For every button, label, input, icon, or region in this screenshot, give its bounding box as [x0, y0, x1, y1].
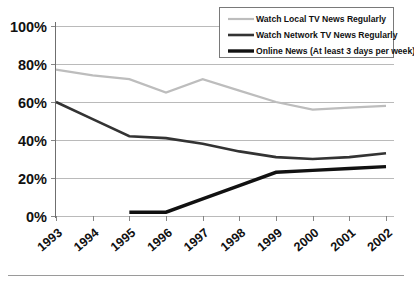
y-axis-label-20: 20%: [18, 171, 47, 187]
y-axis-label-80: 80%: [18, 57, 47, 73]
x-axis-label-1996: 1996: [145, 226, 175, 255]
x-axis-label-1995: 1995: [108, 226, 138, 255]
y-axis-labels: 100%80%60%40%20%0%: [10, 19, 47, 225]
x-axis-label-1999: 1999: [255, 226, 285, 255]
y-axis-label-100: 100%: [10, 19, 47, 35]
x-axis-labels: 1993199419951996199719981999200020012002: [35, 226, 395, 255]
x-axis-label-2001: 2001: [328, 226, 358, 255]
y-axis-label-40: 40%: [18, 133, 47, 149]
legend-label-0: Watch Local TV News Regularly: [256, 14, 386, 24]
series-line-0: [56, 70, 386, 110]
y-axis-label-60: 60%: [18, 95, 47, 111]
y-axis-label-0: 0%: [26, 209, 47, 225]
series-line-2: [129, 167, 386, 213]
x-axis-label-1997: 1997: [181, 226, 211, 255]
x-axis-label-2002: 2002: [365, 226, 395, 255]
x-axis-label-1993: 1993: [35, 226, 65, 255]
x-axis-label-2000: 2000: [291, 226, 321, 255]
x-axis-label-1994: 1994: [71, 226, 101, 255]
line-chart: 100%80%60%40%20%0% 199319941995199619971…: [0, 0, 414, 287]
x-axis-label-1998: 1998: [218, 226, 248, 255]
chart-figure: 100%80%60%40%20%0% 199319941995199619971…: [0, 0, 414, 287]
data-series-group: [56, 70, 386, 213]
series-line-1: [56, 102, 386, 159]
legend-label-1: Watch Network TV News Regularly: [256, 30, 398, 40]
legend-label-2: Online News (At least 3 days per week): [256, 46, 414, 56]
